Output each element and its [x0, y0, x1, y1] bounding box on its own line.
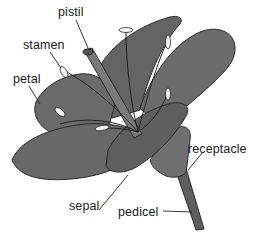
label-sepal: sepal	[69, 200, 99, 213]
stigma-shape	[83, 49, 93, 55]
flower-diagram: pistil stamen petal receptacle sepal ped…	[0, 0, 253, 235]
label-petal: petal	[13, 73, 41, 86]
label-stamen: stamen	[23, 39, 65, 52]
label-pedicel: pedicel	[118, 206, 158, 219]
flower-illustration	[0, 0, 253, 235]
label-receptacle: receptacle	[188, 143, 247, 156]
pedicel-shape	[176, 168, 204, 230]
label-pistil: pistil	[58, 6, 84, 19]
